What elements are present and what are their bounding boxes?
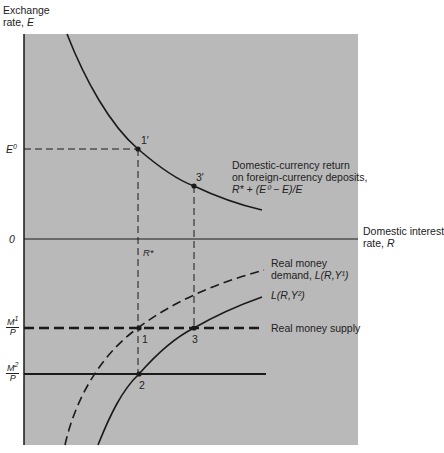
point-3prime-label: 3′ [196,171,204,183]
money-demand-y1-curve [65,270,264,445]
point-3 [191,325,196,330]
money-demand-y1-label: Real money demand, L(R,Y¹) [271,257,349,281]
m1-over-p-label: M1 P [6,318,19,337]
money-demand-y2-curve [98,297,262,445]
e0-label: E0 [6,143,17,155]
point-3prime [191,183,196,188]
return-curve-label: Domestic-currency return on foreign-curr… [232,159,367,195]
origin-label: 0 [9,233,15,245]
point-1prime-label: 1′ [141,134,149,146]
r-star-label: R* [143,247,154,259]
money-supply-label: Real money supply [271,322,360,334]
x-axis-label: Domestic interest rate, R [363,225,444,249]
y-axis-label: Exchange rate, E [3,4,50,28]
point-1-label: 1 [142,333,148,345]
m2-over-p-label: M2 P [6,364,19,383]
point-2 [136,371,141,376]
point-3-label: 3 [192,333,198,345]
point-1prime [135,146,140,151]
point-1 [136,325,141,330]
money-demand-y2-label: L(R,Y²) [271,289,305,301]
point-2-label: 2 [139,379,145,391]
